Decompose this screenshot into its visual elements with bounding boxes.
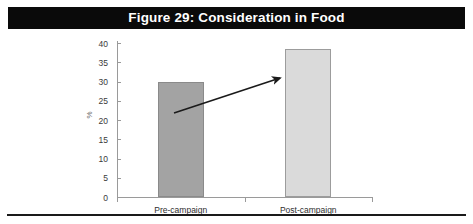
y-axis-tick-label: 15 — [99, 136, 108, 145]
figure-title-bar: Figure 29: Consideration in Food — [8, 7, 465, 29]
growth-arrow-icon — [170, 73, 295, 118]
y-axis-tick-label: 30 — [99, 78, 108, 87]
bar-chart: % 0510152025303540 Pre-campaignPost-camp… — [0, 33, 473, 208]
x-axis-tick-mark — [372, 198, 373, 202]
y-axis-tick-label: 25 — [99, 97, 108, 106]
x-axis-tick-mark — [245, 198, 246, 202]
y-axis-label: % — [86, 111, 94, 118]
plot-area — [117, 43, 372, 197]
bottom-divider — [7, 214, 466, 216]
y-axis-tick-label: 0 — [103, 193, 108, 202]
page-title: Figure 29: Consideration in Food — [128, 11, 344, 25]
y-axis-tick-label: 10 — [99, 155, 108, 164]
y-axis-tick-label: 35 — [99, 59, 108, 68]
bar-post-campaign — [285, 49, 331, 197]
y-axis-tick-label: 40 — [99, 39, 108, 48]
x-axis-tick-mark — [117, 198, 118, 202]
y-axis-tick-label: 5 — [103, 174, 108, 183]
y-axis-tick-label: 20 — [99, 116, 108, 125]
